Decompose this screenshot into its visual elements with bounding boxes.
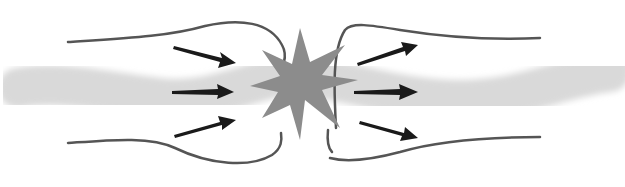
arrow-right-icon xyxy=(173,46,236,68)
left-upper-field-line xyxy=(68,22,285,62)
left-arrows xyxy=(172,46,236,138)
arrow-right-icon xyxy=(174,116,236,138)
left-lower-field-line xyxy=(68,133,281,163)
arrow-right-icon xyxy=(359,121,418,141)
arrow-right-icon xyxy=(357,42,418,66)
starburst-icon xyxy=(250,28,358,140)
right-arrows xyxy=(354,42,418,141)
right-band xyxy=(300,72,610,100)
right-lower-field-line-stub xyxy=(328,130,332,152)
collision-diagram xyxy=(0,0,625,187)
right-lower-field-line xyxy=(330,137,540,160)
